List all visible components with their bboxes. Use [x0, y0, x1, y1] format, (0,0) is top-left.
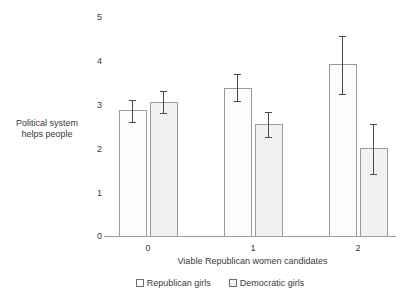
errorbar-cap-bottom-democratic-2	[370, 174, 377, 175]
x-tick-label-0: 0	[138, 243, 158, 253]
errorbar-democratic-0	[163, 91, 164, 113]
y-tick-label-0: 0	[86, 231, 102, 241]
errorbar-cap-bottom-republican-1	[234, 101, 241, 102]
legend-label-republican-girls: Republican girls	[147, 278, 211, 288]
y-axis-title-line-1: Political system	[8, 118, 86, 129]
errorbar-republican-2	[342, 36, 343, 94]
bar-democratic-1	[255, 124, 283, 237]
errorbar-cap-top-democratic-1	[265, 112, 272, 113]
y-tick-label-2: 2	[86, 144, 102, 154]
bar-republican-2	[329, 64, 357, 237]
y-axis-title: Political system helps people	[8, 118, 86, 140]
errorbar-democratic-2	[373, 124, 374, 174]
y-tick-label-4: 4	[86, 56, 102, 66]
errorbar-cap-top-republican-1	[234, 74, 241, 75]
errorbar-republican-0	[132, 100, 133, 122]
errorbar-cap-bottom-democratic-0	[160, 113, 167, 114]
y-tick-label-3: 3	[86, 100, 102, 110]
x-tick-label-2: 2	[348, 243, 368, 253]
errorbar-republican-1	[237, 74, 238, 101]
errorbar-cap-top-democratic-0	[160, 91, 167, 92]
bar-republican-0	[119, 110, 147, 237]
bar-chart-figure: 5 4 3 2 1 0 Political system helps peopl…	[0, 0, 401, 305]
errorbar-cap-bottom-republican-0	[129, 122, 136, 123]
bar-republican-1	[224, 88, 252, 237]
legend-swatch-icon-republican	[136, 279, 144, 287]
chart-legend: Republican girls Democratic girls	[100, 278, 340, 288]
legend-label-democratic-girls: Democratic girls	[240, 278, 305, 288]
legend-swatch-icon-democratic	[229, 279, 237, 287]
legend-entry-democratic-girls: Democratic girls	[229, 278, 305, 288]
y-tick-label-1: 1	[86, 188, 102, 198]
bar-democratic-0	[150, 102, 178, 237]
y-axis-title-line-2: helps people	[8, 129, 86, 140]
errorbar-cap-top-republican-2	[339, 36, 346, 37]
errorbar-cap-bottom-democratic-1	[265, 137, 272, 138]
errorbar-democratic-1	[268, 112, 269, 137]
x-tick-label-1: 1	[243, 243, 263, 253]
y-tick-label-5: 5	[86, 12, 102, 22]
errorbar-cap-bottom-republican-2	[339, 94, 346, 95]
legend-entry-republican-girls: Republican girls	[136, 278, 211, 288]
errorbar-cap-top-democratic-2	[370, 124, 377, 125]
bar-democratic-2	[360, 148, 388, 237]
x-axis-title: Viable Republican women candidates	[110, 256, 395, 266]
errorbar-cap-top-republican-0	[129, 100, 136, 101]
